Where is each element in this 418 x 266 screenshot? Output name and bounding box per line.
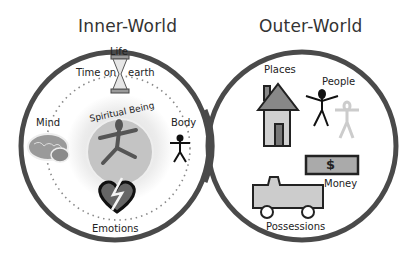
label-time-on: Time on [76,67,116,78]
inner-world-title: Inner-World [78,16,177,36]
label-body: Body [171,117,196,128]
label-life: Life [110,46,128,57]
house-icon [258,84,298,146]
label-earth: earth [128,67,155,78]
label-people: People [322,76,355,87]
label-emotions: Emotions [92,223,139,234]
label-places: Places [264,64,296,75]
money-symbol: $ [326,157,335,172]
label-possessions: Possessions [266,221,325,232]
venn-diagram [0,0,418,266]
outer-world-title: Outer-World [259,16,363,36]
truck-icon [253,177,323,218]
label-money: Money [324,178,357,189]
label-mind: Mind [36,117,60,128]
people-icon [306,90,359,138]
